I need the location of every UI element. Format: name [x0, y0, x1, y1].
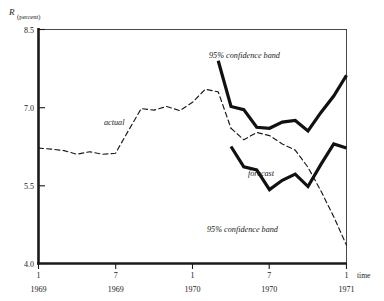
- chart-background: [0, 0, 384, 301]
- x-tick-month-3: 7: [267, 271, 271, 280]
- x-tick-year-2: 1970: [185, 285, 201, 294]
- y-tick-label-7-0: 7.0: [24, 104, 34, 113]
- x-tick-year-1: 1969: [108, 285, 124, 294]
- annotation-forecast: forecast: [248, 169, 275, 178]
- forecast-chart: R (percent) 8.5 7.0 5.5 4.0 1 7 1 7 1 19…: [0, 0, 384, 301]
- x-tick-month-1: 7: [114, 271, 118, 280]
- x-tick-month-4: 1: [345, 271, 349, 280]
- y-axis-title: R: [8, 7, 15, 17]
- y-tick-label-4-0: 4.0: [24, 260, 34, 269]
- y-axis-title-unit: (percent): [17, 13, 40, 21]
- x-tick-month-2: 1: [191, 271, 195, 280]
- x-tick-year-3: 1970: [261, 285, 277, 294]
- x-tick-year-0: 1969: [31, 285, 47, 294]
- x-tick-year-4: 1971: [339, 285, 355, 294]
- x-axis-title: time: [357, 271, 371, 280]
- annotation-confidence-band-lower: 95% confidence band: [207, 225, 279, 234]
- y-tick-label-8-5: 8.5: [24, 26, 34, 35]
- annotation-actual: actual: [104, 118, 125, 127]
- y-tick-label-5-5: 5.5: [24, 182, 34, 191]
- annotation-confidence-band-upper: 95% confidence band: [209, 51, 281, 60]
- x-tick-month-0: 1: [37, 271, 41, 280]
